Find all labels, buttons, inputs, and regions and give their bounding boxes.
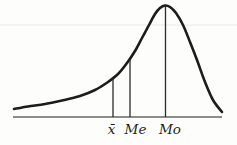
skewed-distribution-figure: x̄ Me Mo — [0, 0, 237, 145]
figure-canvas: x̄ Me Mo — [0, 0, 237, 145]
mode-label: Mo — [158, 121, 181, 137]
distribution-curve — [14, 5, 222, 112]
median-label: Me — [124, 121, 147, 137]
mean-label: x̄ — [108, 121, 116, 137]
